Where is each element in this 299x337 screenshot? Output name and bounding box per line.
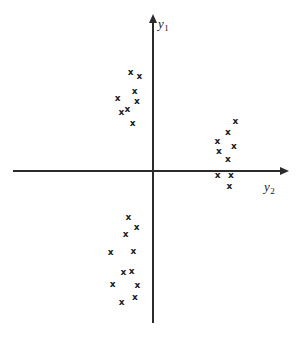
data-point: x xyxy=(119,268,127,277)
horizontal-axis-arrow-icon xyxy=(280,167,289,175)
data-point: x xyxy=(135,72,143,81)
data-point: x xyxy=(128,267,136,276)
vertical-axis-label-text: y xyxy=(158,16,164,31)
data-point: x xyxy=(230,142,238,151)
data-point: x xyxy=(131,293,139,302)
scatter-plot-figure: y1 y2 xxxxxxxxxxxxxxxxxxxxxxxxxxxx xyxy=(0,0,299,337)
data-point: x xyxy=(131,87,139,96)
data-point: x xyxy=(214,171,222,180)
data-point: x xyxy=(227,171,235,180)
data-point: x xyxy=(224,155,232,164)
data-point: x xyxy=(124,213,132,222)
data-point: x xyxy=(107,248,115,257)
data-point: x xyxy=(133,97,141,106)
data-point: x xyxy=(109,280,117,289)
data-point: x xyxy=(114,94,122,103)
data-point: x xyxy=(224,128,232,137)
horizontal-axis-label-subscript: 2 xyxy=(270,186,275,196)
data-point: x xyxy=(122,230,130,239)
data-point: x xyxy=(118,298,126,307)
data-point: x xyxy=(215,147,223,156)
vertical-axis-label-subscript: 1 xyxy=(164,23,169,33)
data-point: x xyxy=(129,247,137,256)
vertical-axis-arrow-icon xyxy=(149,14,157,23)
data-point: x xyxy=(129,119,137,128)
data-point: x xyxy=(117,108,125,117)
data-point: x xyxy=(225,182,233,191)
data-point: x xyxy=(127,68,135,77)
data-point: x xyxy=(213,137,221,146)
data-point: x xyxy=(231,117,239,126)
horizontal-axis-line xyxy=(13,170,281,172)
vertical-axis-line xyxy=(152,21,154,323)
vertical-axis-label: y1 xyxy=(158,17,168,30)
data-point: x xyxy=(133,223,141,232)
horizontal-axis-label: y2 xyxy=(264,180,274,193)
data-point: x xyxy=(133,281,141,290)
horizontal-axis-label-text: y xyxy=(264,179,270,194)
plot-area: y1 y2 xxxxxxxxxxxxxxxxxxxxxxxxxxxx xyxy=(0,0,299,337)
